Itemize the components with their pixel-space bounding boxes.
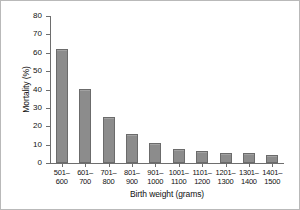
x-axis-tick-label-line: 901– (144, 168, 167, 177)
x-axis-tick-label: 901–1000 (144, 168, 167, 186)
y-axis-tick-label: 60 (2, 49, 42, 57)
x-axis-tick (132, 164, 133, 167)
y-axis-tick (46, 34, 50, 35)
x-axis-tick-label-line: 801– (120, 168, 143, 177)
x-axis-tick (62, 164, 63, 167)
x-axis-tick-label-line: 600 (50, 177, 73, 186)
y-axis-tick-label: 0 (2, 159, 42, 167)
y-axis-tick-label: 80 (2, 12, 42, 20)
y-axis-tick (46, 16, 50, 17)
x-axis-tick-label-line: 501– (50, 168, 73, 177)
x-axis-tick (202, 164, 203, 167)
x-axis-title: Birth weight (grams) (50, 189, 284, 199)
bar (220, 153, 232, 163)
y-axis-tick-label: 30 (2, 104, 42, 112)
x-axis-tick-label: 1101–1200 (190, 168, 213, 186)
y-axis-tick-label: 50 (2, 67, 42, 75)
bar (173, 149, 185, 163)
x-axis-tick (272, 164, 273, 167)
x-axis-tick-label: 1201–1300 (214, 168, 237, 186)
x-axis-tick-label-line: 1201– (214, 168, 237, 177)
x-axis-tick-label-line: 1000 (144, 177, 167, 186)
y-axis-tick-label: 10 (2, 141, 42, 149)
x-axis-tick (249, 164, 250, 167)
x-axis-tick-label: 1301–1400 (237, 168, 260, 186)
x-axis-tick-label: 801–900 (120, 168, 143, 186)
y-axis-tick (46, 90, 50, 91)
x-axis-tick-label: 601–700 (73, 168, 96, 186)
x-axis-tick-label: 1401–1500 (261, 168, 284, 186)
y-axis-tick-label: 20 (2, 122, 42, 130)
y-axis-tick (46, 71, 50, 72)
y-axis-tick-label: 70 (2, 30, 42, 38)
chart-figure: Mortality (%) Birth weight (grams) 01020… (0, 0, 300, 210)
y-axis-tick (46, 163, 50, 164)
x-axis-tick-label: 501–600 (50, 168, 73, 186)
x-axis-tick-label: 1001–1100 (167, 168, 190, 186)
x-axis-tick-label-line: 700 (73, 177, 96, 186)
x-axis-tick-label-line: 1100 (167, 177, 190, 186)
y-axis-tick-label: 40 (2, 86, 42, 94)
y-axis-tick (46, 53, 50, 54)
x-axis-tick-label-line: 1500 (261, 177, 284, 186)
x-axis-tick-label-line: 1001– (167, 168, 190, 177)
x-axis-tick-label-line: 1401– (261, 168, 284, 177)
y-axis-tick (46, 108, 50, 109)
x-axis-tick-label-line: 1300 (214, 177, 237, 186)
x-axis-tick-label-line: 800 (97, 177, 120, 186)
x-axis-tick-label-line: 701– (97, 168, 120, 177)
bar (243, 153, 255, 163)
x-axis-tick (179, 164, 180, 167)
y-axis-tick (46, 126, 50, 127)
y-axis-tick (46, 145, 50, 146)
x-axis-tick-label-line: 900 (120, 177, 143, 186)
x-axis-tick-label: 701–800 (97, 168, 120, 186)
x-axis-tick (226, 164, 227, 167)
x-axis-tick (85, 164, 86, 167)
x-axis-tick-label-line: 601– (73, 168, 96, 177)
x-axis-tick-label-line: 1200 (190, 177, 213, 186)
bar (149, 143, 161, 163)
bar (196, 151, 208, 163)
bar (103, 117, 115, 163)
x-axis-tick (155, 164, 156, 167)
x-axis-tick-label-line: 1301– (237, 168, 260, 177)
bar (266, 155, 278, 163)
bar (56, 49, 68, 163)
x-axis-tick-label-line: 1101– (190, 168, 213, 177)
x-axis-tick (109, 164, 110, 167)
bar (79, 89, 91, 163)
x-axis-tick-label-line: 1400 (237, 177, 260, 186)
bar (126, 134, 138, 163)
